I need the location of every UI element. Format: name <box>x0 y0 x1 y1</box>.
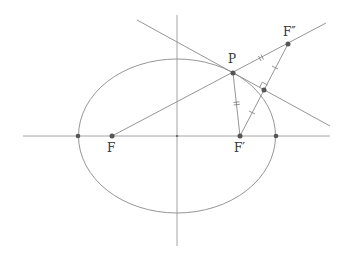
point-right-vertex <box>274 134 279 139</box>
ellipse-diagram: F F′ P F″ <box>0 0 348 262</box>
point-left-vertex <box>76 134 81 139</box>
right-angle-marker <box>260 82 268 87</box>
point-center <box>176 135 178 137</box>
focal-line-F-to-F-double-prime <box>112 23 326 136</box>
point-P <box>231 71 236 76</box>
diagram-svg: F F′ P F″ <box>0 0 348 262</box>
label-F-prime: F′ <box>234 141 245 155</box>
label-F-double-prime: F″ <box>283 25 296 39</box>
point-M <box>262 88 267 93</box>
label-P: P <box>228 52 236 66</box>
point-F-prime <box>238 134 243 139</box>
label-F: F <box>107 141 115 155</box>
point-F <box>110 134 115 139</box>
point-F-double-prime <box>286 42 291 47</box>
